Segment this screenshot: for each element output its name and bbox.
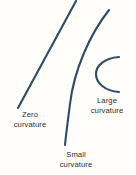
- small-curvature-curve: [65, 10, 109, 145]
- curve-drawing: [0, 0, 136, 175]
- small-curvature-label: Small curvature: [48, 150, 104, 169]
- small-curvature-label-line2: curvature: [48, 160, 104, 170]
- zero-curvature-label: Zero curvature: [3, 110, 57, 129]
- small-curvature-label-line1: Small: [48, 150, 104, 160]
- curvature-figure: Zero curvature Small curvature Large cur…: [0, 0, 136, 175]
- zero-curvature-line: [18, 1, 76, 108]
- large-curvature-label-line1: Large: [80, 96, 134, 106]
- large-curvature-arc: [96, 57, 119, 92]
- zero-curvature-label-line2: curvature: [3, 120, 57, 130]
- large-curvature-label-line2: curvature: [80, 106, 134, 116]
- zero-curvature-label-line1: Zero: [3, 110, 57, 120]
- large-curvature-label: Large curvature: [80, 96, 134, 115]
